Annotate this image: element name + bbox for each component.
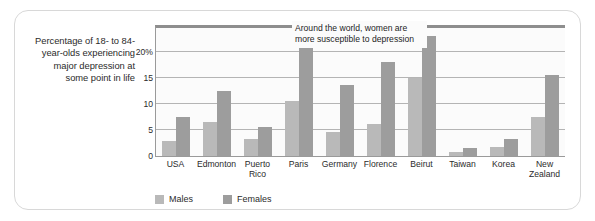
- x-axis-label: Beirut: [401, 159, 442, 179]
- x-axis-label: USA: [155, 159, 196, 179]
- chart-legend: Males Females: [155, 194, 272, 204]
- legend-item-females[interactable]: Females: [223, 194, 272, 204]
- chart-figure: Percentage of 18- to 84-year-olds experi…: [14, 10, 581, 210]
- legend-swatch-females: [223, 195, 232, 204]
- y-axis-tick-label: 0: [148, 151, 153, 161]
- bar-group: [197, 28, 238, 156]
- x-axis-label: Paris: [278, 159, 319, 179]
- bar: [422, 36, 436, 156]
- bar: [217, 91, 231, 156]
- legend-item-males[interactable]: Males: [155, 194, 193, 204]
- bar: [463, 148, 477, 156]
- plot-wrapper: 05101520% USAEdmontonPuerto RicoParisGer…: [141, 25, 565, 205]
- bar: [381, 62, 395, 156]
- x-axis-label: New Zealand: [524, 159, 565, 179]
- bar-group: [442, 28, 483, 156]
- x-axis-label: Germany: [319, 159, 360, 179]
- bar: [449, 152, 463, 156]
- bar: [162, 141, 176, 156]
- chart-annotation: Around the world, women are more suscept…: [292, 21, 427, 48]
- bar: [244, 139, 258, 156]
- bar: [285, 101, 299, 156]
- bar: [367, 124, 381, 156]
- legend-swatch-males: [155, 195, 164, 204]
- x-axis-label: Florence: [360, 159, 401, 179]
- bar: [176, 117, 190, 156]
- x-axis-label: Korea: [483, 159, 524, 179]
- x-axis-label: Puerto Rico: [237, 159, 278, 179]
- bar-group: [238, 28, 279, 156]
- y-axis-tick-label: 5: [148, 125, 153, 135]
- bar: [408, 78, 422, 156]
- x-axis-label: Edmonton: [196, 159, 237, 179]
- y-axis-tick-label: 15: [143, 73, 153, 83]
- bar: [299, 42, 313, 156]
- x-axis-label: Taiwan: [442, 159, 483, 179]
- y-axis-tick-label: 10: [143, 99, 153, 109]
- bar: [203, 122, 217, 156]
- y-axis-tick-label: 20%: [136, 47, 153, 57]
- bar: [490, 147, 504, 156]
- bar-group: [524, 28, 565, 156]
- x-axis-labels: USAEdmontonPuerto RicoParisGermanyFloren…: [155, 159, 565, 179]
- legend-label-males: Males: [169, 194, 193, 204]
- bar: [531, 117, 545, 156]
- bar-group: [156, 28, 197, 156]
- bar: [326, 132, 340, 156]
- bar: [258, 127, 272, 156]
- chart-caption: Percentage of 18- to 84-year-olds experi…: [31, 35, 135, 85]
- bar: [545, 75, 559, 156]
- bar: [504, 139, 518, 156]
- bar-group: [483, 28, 524, 156]
- legend-label-females: Females: [237, 194, 272, 204]
- bar: [340, 85, 354, 156]
